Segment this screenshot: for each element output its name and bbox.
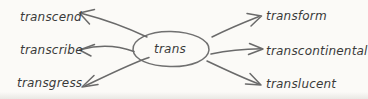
- arrow-transcend: [80, 10, 148, 38]
- word-transgress: transgress: [17, 75, 82, 91]
- word-transform: transform: [266, 8, 327, 24]
- word-transcend: transcend: [20, 9, 82, 25]
- arrow-transcribe: [80, 45, 135, 57]
- word-transcribe: transcribe: [20, 42, 83, 58]
- word-web-diagram: trans transcend transcribe transgress tr…: [0, 0, 368, 99]
- word-transcontinental: transcontinental: [266, 43, 368, 59]
- arrow-transform: [212, 14, 262, 38]
- center-node-label: trans: [154, 41, 186, 57]
- arrow-transgress: [82, 58, 149, 88]
- arrow-translucent: [207, 61, 261, 85]
- arrow-transcontinental: [211, 44, 263, 55]
- word-translucent: translucent: [266, 76, 336, 92]
